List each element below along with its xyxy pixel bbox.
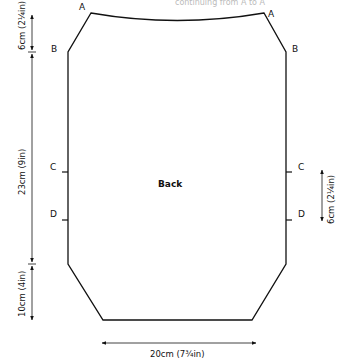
label-d-right: D: [298, 209, 305, 219]
dim-label-left-bottom: 10cm (4in): [17, 271, 27, 317]
label-a-left: A: [79, 2, 86, 12]
piece-title: Back: [158, 179, 183, 189]
dim-label-left-middle: 23cm (9in): [17, 149, 27, 195]
label-c-left: C: [50, 162, 56, 172]
schematic-diagram: continuing from A to A A A B B C C D D B…: [0, 0, 338, 364]
label-b-right: B: [292, 44, 298, 54]
label-d-left: D: [50, 209, 57, 219]
dim-label-bottom-width: 20cm (7¾in): [150, 349, 205, 359]
cutoff-caption: continuing from A to A: [175, 0, 266, 7]
label-a-right: A: [268, 9, 275, 19]
back-piece-outline: [68, 13, 286, 320]
label-c-right: C: [298, 162, 304, 172]
dim-label-left-top: 6cm (2¼in): [17, 1, 27, 50]
dim-label-right-cd: 6cm (2¼in): [326, 175, 336, 224]
label-b-left: B: [51, 44, 57, 54]
